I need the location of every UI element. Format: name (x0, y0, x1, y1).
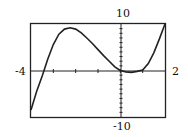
y-min-label: -10 (113, 121, 131, 132)
x-min-label: -4 (15, 66, 26, 77)
y-max-label: 10 (116, 8, 130, 19)
x-max-label: 2 (172, 66, 179, 77)
graph (0, 0, 188, 137)
function-curve (31, 24, 165, 110)
